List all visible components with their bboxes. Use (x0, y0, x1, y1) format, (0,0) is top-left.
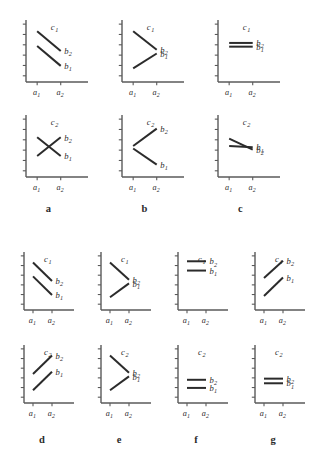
subplot-a-c1: a1a2c1b2b1 (23, 20, 88, 98)
x-tick-label-a2: a2 (125, 316, 132, 326)
subplot-d-c2: a1a2c2b2b1 (21, 345, 74, 419)
x-tick-label-a2-subscript: 2 (61, 92, 64, 98)
subplot-f-c1: a1a2c1b2b1 (175, 252, 228, 326)
x-tick-label-a1-subscript: 1 (110, 413, 113, 419)
subplot-e-c1: a1a2c1b2b1 (98, 252, 151, 326)
x-tick-label-a1-subscript: 1 (229, 187, 232, 193)
x-tick-label-a1: a1 (183, 409, 190, 419)
panel-b: a1a2c1b2b1a1a2c2b2b1b (119, 20, 184, 214)
series-label-b2: b2 (160, 124, 168, 135)
subplot-c-c2: a1a2c2b2b1 (215, 115, 280, 193)
series-label-b1: b1 (287, 273, 295, 284)
series-label-b1-subscript: 1 (214, 270, 217, 277)
level-label-c1: c1 (198, 254, 206, 265)
subplot-a-c2: a1a2c2b2b1 (23, 115, 88, 193)
x-tick-label-a1-subscript: 1 (187, 413, 190, 419)
series-label-b1-subscript: 1 (165, 53, 168, 60)
series-label-b1: b1 (256, 142, 264, 153)
x-tick-label-a1: a1 (260, 409, 267, 419)
series-line-b1 (133, 53, 157, 68)
series-label-b2: b2 (64, 133, 72, 144)
series-label-b1-subscript: 1 (214, 387, 217, 394)
series-label-b1-subscript: 1 (69, 155, 72, 162)
x-tick-label-a1-subscript: 1 (133, 187, 136, 193)
subplot-d-c1: a1a2c1b2b1 (21, 252, 74, 326)
panel-a: a1a2c1b2b1a1a2c2b2b1a (23, 20, 88, 214)
panel-caption-a: a (46, 203, 52, 214)
series-label-b2-subscript: 2 (291, 260, 294, 267)
level-label-c1: c1 (243, 22, 251, 33)
panel-f: a1a2c1b2b1a1a2c2b2b1f (175, 252, 228, 445)
series-label-b1: b1 (64, 151, 72, 162)
series-line-b2 (33, 355, 52, 374)
subplot-b-c1: a1a2c1b2b1 (119, 20, 184, 98)
figure-canvas: a1a2c1b2b1a1a2c2b2b1aa1a2c1b2b1a1a2c2b2b… (0, 0, 330, 469)
series-label-b1-subscript: 1 (261, 147, 264, 154)
series-label-b1-subscript: 1 (137, 376, 140, 383)
x-tick-label-a1: a1 (129, 183, 136, 193)
series-label-b1-subscript: 1 (137, 283, 140, 290)
x-tick-label-a1-subscript: 1 (229, 92, 232, 98)
level-label-c1-text: c (51, 22, 55, 32)
x-tick-label-a1-subscript: 1 (33, 320, 36, 326)
subplot-e-c2: a1a2c2b2b1 (98, 345, 151, 419)
x-tick-label-a2: a2 (249, 183, 256, 193)
x-tick-label-a1: a1 (225, 183, 232, 193)
x-tick-label-a2-subscript: 2 (253, 92, 256, 98)
series-label-b2-subscript: 2 (69, 50, 72, 57)
series-line-b2 (133, 31, 157, 50)
x-tick-label-a2: a2 (48, 409, 55, 419)
level-label-c1-subscript: 1 (55, 26, 58, 33)
subplot-b-c2: a1a2c2b2b1 (119, 115, 184, 193)
level-label-c1-subscript: 1 (247, 26, 250, 33)
x-tick-label-a2-subscript: 2 (129, 413, 132, 419)
series-label-b2-subscript: 2 (69, 137, 72, 144)
x-tick-label-a2-subscript: 2 (52, 320, 55, 326)
series-label-b1-subscript: 1 (261, 46, 264, 53)
x-tick-label-a2-subscript: 2 (61, 187, 64, 193)
x-tick-label-a1: a1 (129, 88, 136, 98)
x-tick-label-a2: a2 (48, 316, 55, 326)
series-label-b1-subscript: 1 (60, 371, 63, 378)
subplot-c-c1: a1a2c1b2b1 (215, 20, 280, 98)
level-label-c2-subscript: 2 (202, 351, 205, 358)
series-label-b2-subscript: 2 (60, 280, 63, 287)
x-tick-label-a2-subscript: 2 (157, 187, 160, 193)
x-tick-label-a1: a1 (29, 409, 36, 419)
panel-d: a1a2c1b2b1a1a2c2b2b1d (21, 252, 74, 445)
level-label-c1-subscript: 1 (125, 258, 128, 265)
subplot-g-c2: a1a2c2b2b1 (252, 345, 305, 419)
level-label-c1-text: c (147, 22, 151, 32)
series-label-b2-subscript: 2 (214, 379, 217, 386)
level-label-c2-subscript: 2 (55, 121, 58, 128)
x-tick-label-a2-subscript: 2 (129, 320, 132, 326)
series-label-b2: b2 (64, 46, 72, 57)
series-line-b1 (110, 283, 129, 297)
x-tick-label-a1-subscript: 1 (37, 187, 40, 193)
level-label-c2: c2 (275, 347, 283, 358)
x-tick-label-a2: a2 (202, 409, 209, 419)
series-label-b2-subscript: 2 (214, 261, 217, 268)
level-label-c2-text: c (51, 117, 55, 127)
panel-caption-e: e (117, 434, 122, 445)
subplot-g-c1: a1a2c1b2b1 (252, 252, 305, 326)
x-tick-label-a2-subscript: 2 (206, 413, 209, 419)
level-label-c2: c2 (51, 117, 59, 128)
x-tick-label-a1-subscript: 1 (133, 92, 136, 98)
level-label-c1-text: c (275, 254, 279, 264)
level-label-c1: c1 (147, 22, 155, 33)
x-tick-label-a2: a2 (279, 316, 286, 326)
level-label-c2-text: c (243, 117, 247, 127)
x-tick-label-a2: a2 (202, 316, 209, 326)
series-line-b2 (133, 129, 157, 146)
x-tick-label-a2-subscript: 2 (283, 320, 286, 326)
series-label-b2: b2 (56, 276, 64, 287)
series-label-b1-subscript: 1 (60, 294, 63, 301)
series-label-b1: b1 (56, 290, 64, 301)
series-label-b1-subscript: 1 (291, 383, 294, 390)
level-label-c2-subscript: 2 (151, 121, 154, 128)
series-label-b2: b2 (56, 351, 64, 362)
x-tick-label-a1: a1 (183, 316, 190, 326)
level-label-c1-text: c (243, 22, 247, 32)
level-label-c2-subscript: 2 (125, 351, 128, 358)
